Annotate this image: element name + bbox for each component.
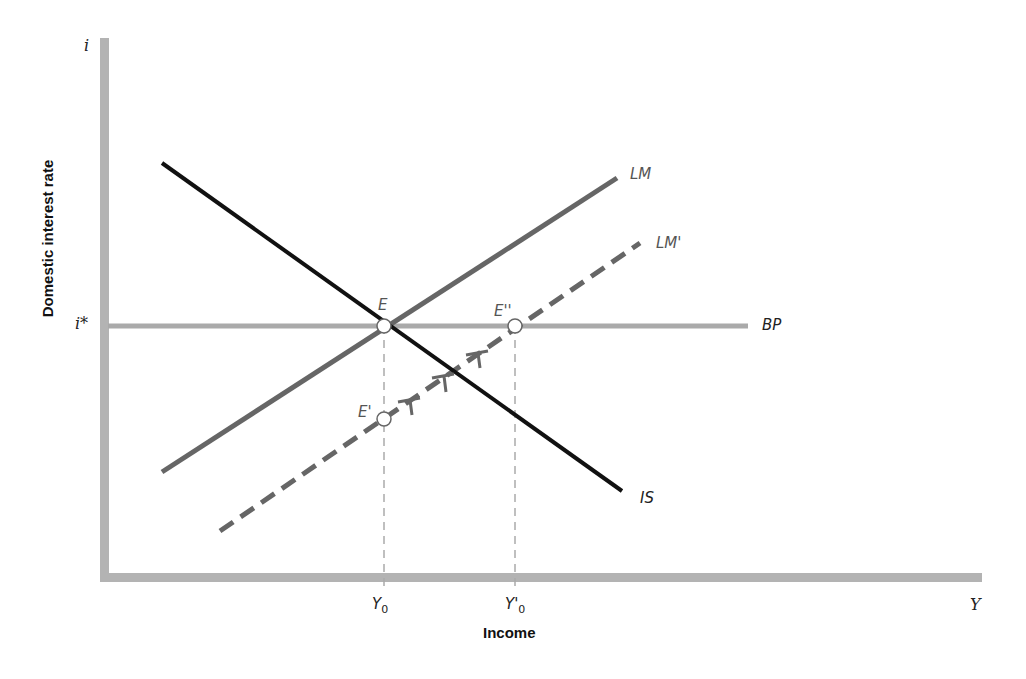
x-axis	[100, 573, 982, 582]
movement-arrows	[398, 351, 488, 415]
y-axis	[100, 38, 109, 582]
e-prime-label: E'	[358, 405, 372, 420]
bp-label: BP	[762, 318, 781, 333]
x-axis-title: Income	[483, 624, 536, 641]
y0-prime-tick: Y'0	[505, 597, 525, 615]
point-e-double-prime	[508, 319, 522, 333]
x-axis-symbol: Y	[970, 597, 981, 613]
point-e	[377, 319, 391, 333]
lm-label: LM	[630, 167, 651, 182]
is-label: IS	[640, 491, 654, 506]
y0-tick: Y0	[372, 597, 388, 615]
lm-prime-label: LM'	[656, 236, 681, 251]
point-e-prime	[377, 412, 391, 426]
e-double-prime-label: E''	[494, 304, 512, 319]
y-axis-symbol: i	[84, 38, 89, 54]
i-star-tick: i*	[75, 316, 88, 332]
e-label: E	[378, 298, 387, 313]
lm-prime-curve	[220, 243, 640, 531]
chart-canvas	[0, 0, 1026, 679]
y-axis-title: Domestic interest rate	[39, 154, 56, 324]
